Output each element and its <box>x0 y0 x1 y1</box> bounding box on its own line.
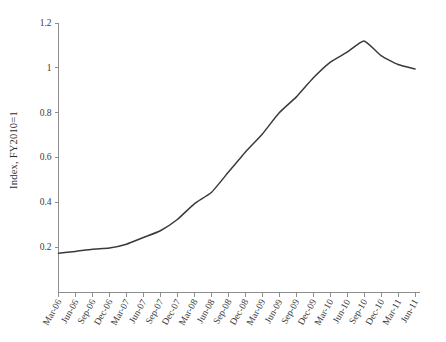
y-tick-label: 1 <box>47 63 52 73</box>
y-tick-label: 1.2 <box>40 18 52 28</box>
y-tick-label: 0.4 <box>40 197 52 207</box>
y-tick-label: 0.2 <box>40 242 52 252</box>
x-tick-label: Mar-06 <box>41 297 64 327</box>
y-tick-label: 0.8 <box>40 108 52 118</box>
y-axis-title-text: Index, FY2010=1 <box>8 111 19 189</box>
x-axis-labels: Mar-06Jun-06Sep-06Dec-06Mar-07Jun-07Sep-… <box>41 297 420 327</box>
y-axis-title: Index, FY2010=1 <box>8 111 19 189</box>
x-tick-label: Jun-11 <box>399 297 421 324</box>
y-axis-ticks: 0.20.40.60.811.2 <box>40 18 59 253</box>
line-chart: Index, FY2010=1 0.20.40.60.811.2 Mar-06J… <box>0 0 446 342</box>
chart-container: Index, FY2010=1 0.20.40.60.811.2 Mar-06J… <box>0 0 446 342</box>
data-series-line <box>59 41 416 253</box>
y-tick-label: 0.6 <box>40 152 52 162</box>
x-axis-ticks <box>59 293 416 297</box>
